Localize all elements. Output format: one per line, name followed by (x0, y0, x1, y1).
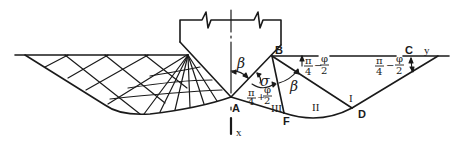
svg-text:φ: φ (264, 84, 271, 95)
svg-text:4: 4 (248, 96, 254, 107)
svg-text:φ: φ (321, 53, 328, 64)
svg-text:2: 2 (321, 65, 327, 76)
ground-surface (15, 55, 449, 56)
zone-i-label: I (349, 92, 353, 104)
zone-ii-label: II (312, 101, 320, 113)
zone-iii-label: III (271, 102, 282, 114)
beta-label-top: β (236, 55, 245, 71)
svg-text:2: 2 (264, 95, 270, 106)
point-a-label: A (232, 102, 240, 114)
svg-text:π: π (376, 55, 383, 66)
x-axis-label: x (236, 126, 242, 138)
svg-text:φ: φ (396, 53, 403, 64)
svg-text:4: 4 (305, 66, 311, 77)
point-d-label: D (358, 108, 366, 120)
point-b-label: B (275, 44, 283, 56)
y-axis-label: y (424, 44, 430, 56)
bearing-capacity-failure-diagram: A B C D F I II III β σ β π 4 + φ 2 π 4 −… (0, 0, 463, 148)
point-c-label: C (405, 44, 413, 56)
svg-text:π: π (305, 55, 312, 66)
svg-text:2: 2 (396, 65, 402, 76)
point-f-label: F (283, 115, 290, 127)
svg-text:4: 4 (376, 66, 382, 77)
beta-label-right: β (289, 78, 298, 94)
svg-text:−: − (386, 60, 394, 71)
